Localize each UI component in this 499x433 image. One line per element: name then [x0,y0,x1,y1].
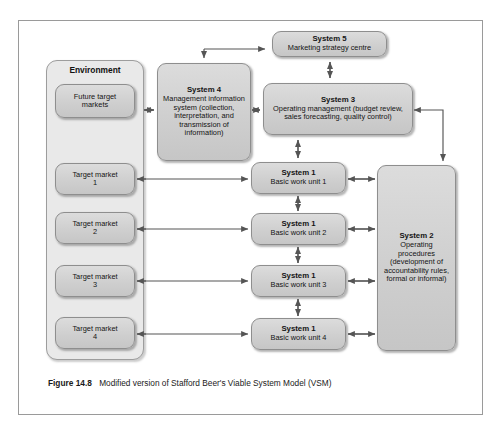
system-4-subtitle: Management information system (collectio… [161,95,247,137]
system-5-subtitle: Marketing strategy centre [288,44,371,52]
system-1-unit-4-subtitle: Basic work unit 4 [271,334,327,342]
system-1-unit-1-subtitle: Basic work unit 1 [271,178,327,186]
target-market-3-line2: 3 [93,281,97,289]
system-3-box[interactable]: System 3 Operating management (budget re… [263,83,413,135]
system-2-box[interactable]: System 2 Operating procedures (developme… [377,165,456,351]
environment-box-target-market-1[interactable]: Target market 1 [55,163,135,195]
target-market-1-line2: 1 [93,179,97,187]
system-1-unit-2-subtitle: Basic work unit 2 [271,229,327,237]
environment-title: Environment [46,65,144,75]
environment-box-target-market-4[interactable]: Target market 4 [55,317,135,349]
environment-box-target-market-2[interactable]: Target market 2 [55,212,135,244]
environment-box-future-target-markets[interactable]: Future target markets [55,84,135,118]
system-4-box[interactable]: System 4 Management information system (… [157,63,251,161]
environment-box-target-market-3[interactable]: Target market 3 [55,265,135,297]
system-2-subtitle: Operating procedures (development of acc… [381,241,452,283]
target-market-4-line2: 4 [93,333,97,341]
system-1-box-unit-3[interactable]: System 1 Basic work unit 3 [251,265,346,297]
future-target-markets-line2: markets [82,101,108,109]
target-market-2-line2: 2 [93,228,97,236]
figure-canvas: Environment Future target markets Target… [0,0,499,433]
system-5-box[interactable]: System 5 Marketing strategy centre [272,31,387,57]
system-3-subtitle: Operating management (budget review, sal… [267,105,409,122]
system-1-unit-3-subtitle: Basic work unit 3 [271,281,327,289]
figure-caption-text: Modified version of Stafford Beer's Viab… [99,378,331,388]
figure-caption: Figure 14.8 Modified version of Stafford… [48,378,468,388]
system-1-box-unit-2[interactable]: System 1 Basic work unit 2 [251,213,346,245]
figure-caption-label: Figure 14.8 [48,378,92,388]
system-1-box-unit-1[interactable]: System 1 Basic work unit 1 [251,162,346,194]
system-1-box-unit-4[interactable]: System 1 Basic work unit 4 [251,318,346,350]
